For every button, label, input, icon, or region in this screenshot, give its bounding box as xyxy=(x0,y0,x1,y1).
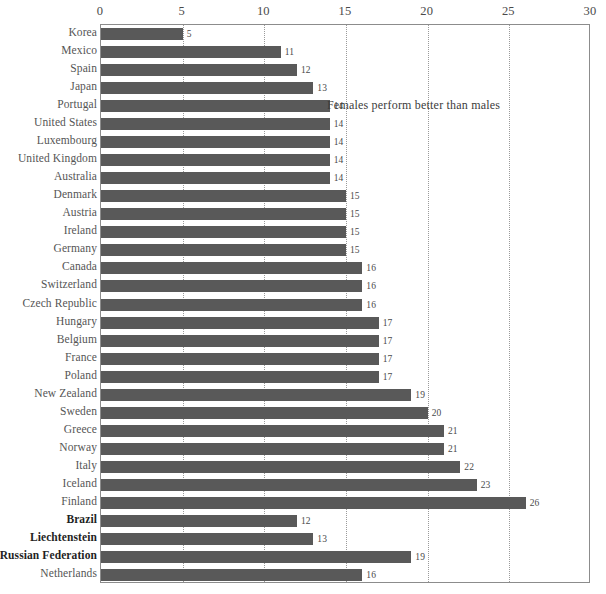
bar-belgium[interactable] xyxy=(101,335,379,347)
x-axis-tick-0: 0 xyxy=(97,4,103,19)
bar-denmark[interactable] xyxy=(101,190,346,202)
bar-poland[interactable] xyxy=(101,371,379,383)
bar-value-label: 23 xyxy=(477,480,491,490)
bar-finland[interactable] xyxy=(101,497,526,509)
bar-row[interactable]: 21 xyxy=(101,425,589,437)
bar-row[interactable]: 17 xyxy=(101,353,589,365)
bar-greece[interactable] xyxy=(101,425,444,437)
bar-value-label: 17 xyxy=(379,318,393,328)
bar-row[interactable]: 17 xyxy=(101,371,589,383)
bar-row[interactable]: 15 xyxy=(101,190,589,202)
bar-row[interactable]: 14 xyxy=(101,118,589,130)
bar-row[interactable]: 13 xyxy=(101,82,589,94)
bar-row[interactable]: 20 xyxy=(101,407,589,419)
bar-value-label: 13 xyxy=(313,534,327,544)
x-axis-tick-10: 10 xyxy=(257,4,270,19)
bar-ireland[interactable] xyxy=(101,226,346,238)
bar-value-label: 20 xyxy=(428,408,442,418)
bar-row[interactable]: 17 xyxy=(101,335,589,347)
bar-value-label: 22 xyxy=(460,462,474,472)
category-label-france: France xyxy=(65,352,97,364)
bar-value-label: 14 xyxy=(330,173,344,183)
bar-value-label: 14 xyxy=(330,137,344,147)
bar-row[interactable]: 19 xyxy=(101,551,589,563)
bar-new-zealand[interactable] xyxy=(101,389,411,401)
bar-value-label: 19 xyxy=(411,552,425,562)
bar-value-label: 12 xyxy=(297,65,311,75)
bar-united-states[interactable] xyxy=(101,118,330,130)
bar-value-label: 12 xyxy=(297,516,311,526)
bar-row[interactable]: 26 xyxy=(101,497,589,509)
bar-row[interactable]: 22 xyxy=(101,461,589,473)
bar-row[interactable]: 16 xyxy=(101,280,589,292)
bar-france[interactable] xyxy=(101,353,379,365)
category-label-greece: Greece xyxy=(64,424,97,436)
category-label-japan: Japan xyxy=(70,81,97,93)
bar-spain[interactable] xyxy=(101,64,297,76)
bar-portugal[interactable] xyxy=(101,100,330,112)
bar-italy[interactable] xyxy=(101,461,460,473)
bar-value-label: 15 xyxy=(346,209,360,219)
bar-row[interactable]: 21 xyxy=(101,443,589,455)
bar-row[interactable]: 23 xyxy=(101,479,589,491)
bar-germany[interactable] xyxy=(101,244,346,256)
bar-value-label: 17 xyxy=(379,354,393,364)
bar-value-label: 21 xyxy=(444,426,458,436)
bar-canada[interactable] xyxy=(101,262,362,274)
bar-value-label: 26 xyxy=(526,498,540,508)
bar-row[interactable]: 14 xyxy=(101,172,589,184)
bar-norway[interactable] xyxy=(101,443,444,455)
bar-row[interactable]: 19 xyxy=(101,389,589,401)
bar-hungary[interactable] xyxy=(101,317,379,329)
category-label-liechtenstein: Liechtenstein xyxy=(30,532,97,544)
bar-row[interactable]: 14 xyxy=(101,136,589,148)
bar-united-kingdom[interactable] xyxy=(101,154,330,166)
bar-value-label: 16 xyxy=(362,300,376,310)
bar-netherlands[interactable] xyxy=(101,569,362,581)
category-label-portugal: Portugal xyxy=(57,99,97,111)
horizontal-bar-chart: 051015202530 KoreaMexicoSpainJapanPortug… xyxy=(0,0,606,594)
bar-row[interactable]: 16 xyxy=(101,299,589,311)
bar-row[interactable]: 16 xyxy=(101,569,589,581)
category-label-united-kingdom: United Kingdom xyxy=(18,153,97,165)
bar-japan[interactable] xyxy=(101,82,313,94)
chart-annotation: Females perform better than males xyxy=(327,98,500,113)
category-label-italy: Italy xyxy=(75,460,97,472)
bar-switzerland[interactable] xyxy=(101,280,362,292)
category-label-mexico: Mexico xyxy=(61,45,97,57)
bar-czech-republic[interactable] xyxy=(101,299,362,311)
bar-row[interactable]: 15 xyxy=(101,226,589,238)
bar-row[interactable]: 15 xyxy=(101,208,589,220)
bar-row[interactable]: 14 xyxy=(101,154,589,166)
bar-row[interactable]: 17 xyxy=(101,317,589,329)
category-label-hungary: Hungary xyxy=(56,316,97,328)
category-label-finland: Finland xyxy=(61,496,97,508)
bar-australia[interactable] xyxy=(101,172,330,184)
bar-row[interactable]: 12 xyxy=(101,64,589,76)
bar-value-label: 16 xyxy=(362,570,376,580)
category-label-korea: Korea xyxy=(68,27,97,39)
bar-korea[interactable] xyxy=(101,28,183,40)
category-label-belgium: Belgium xyxy=(57,334,97,346)
bar-luxembourg[interactable] xyxy=(101,136,330,148)
bar-austria[interactable] xyxy=(101,208,346,220)
bar-iceland[interactable] xyxy=(101,479,477,491)
bar-row[interactable]: 15 xyxy=(101,244,589,256)
bar-value-label: 15 xyxy=(346,245,360,255)
x-axis-tick-labels: 051015202530 xyxy=(100,0,590,24)
bar-row[interactable]: 11 xyxy=(101,46,589,58)
bar-liechtenstein[interactable] xyxy=(101,533,313,545)
bar-value-label: 15 xyxy=(346,191,360,201)
category-label-brazil: Brazil xyxy=(66,514,97,526)
bar-row[interactable]: 12 xyxy=(101,515,589,527)
bar-row[interactable]: 13 xyxy=(101,533,589,545)
bar-row[interactable]: 16 xyxy=(101,262,589,274)
bar-value-label: 16 xyxy=(362,263,376,273)
category-label-netherlands: Netherlands xyxy=(40,568,97,580)
bar-sweden[interactable] xyxy=(101,407,428,419)
bar-mexico[interactable] xyxy=(101,46,281,58)
bar-row[interactable]: 5 xyxy=(101,28,589,40)
bar-russian-federation[interactable] xyxy=(101,551,411,563)
category-label-iceland: Iceland xyxy=(62,478,97,490)
bar-brazil[interactable] xyxy=(101,515,297,527)
